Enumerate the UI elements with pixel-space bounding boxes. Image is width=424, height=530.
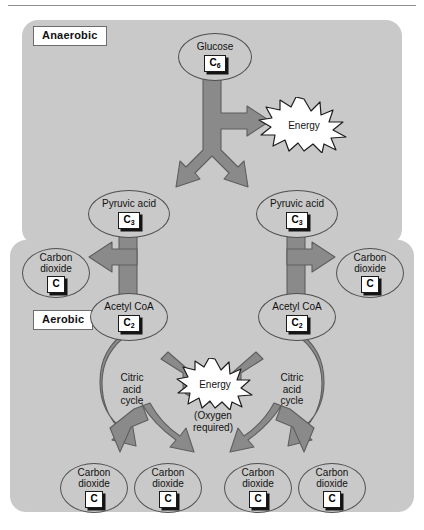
node-carbon-dioxide-bottom-2[interactable]: Carbon dioxide C (134, 463, 202, 513)
arrow-pyruvic-left-to-acetyl (119, 233, 137, 300)
node-pyruvic-right-formula: C3 (286, 212, 307, 229)
formula-subscript: 3 (131, 219, 135, 226)
cycle-right-line3: cycle (264, 395, 320, 407)
node-glucose-formula: C6 (204, 55, 225, 72)
node-carbon-dioxide-bottom-3[interactable]: Carbon dioxide C (224, 463, 292, 513)
energy-burst-aerobic-label: Energy (199, 379, 231, 390)
formula-letter: C (123, 214, 130, 225)
node-co2-ur-line1: Carbon (354, 253, 387, 264)
node-co2-b4-line1: Carbon (316, 468, 349, 479)
node-co2-b1-formula: C (85, 491, 102, 508)
node-acetyl-coa-left[interactable]: Acetyl CoA C2 (90, 293, 168, 341)
node-co2-b2-line1: Carbon (152, 468, 185, 479)
node-co2-b3-line1: Carbon (242, 468, 275, 479)
cycle-right-line2: acid (264, 384, 320, 396)
node-co2-b3-formula: C (249, 491, 266, 508)
node-glucose-label: Glucose (197, 42, 234, 53)
oxygen-note-line1: (Oxygen (182, 410, 244, 422)
formula-letter: C (291, 214, 298, 225)
section-tag-anaerobic: Anaerobic (33, 26, 107, 46)
node-carbon-dioxide-upper-right[interactable]: Carbon dioxide C (336, 248, 404, 298)
arrow-glucose-split (176, 78, 270, 187)
formula-subscript: 3 (299, 219, 303, 226)
cycle-left-line1: Citric (104, 372, 160, 384)
cycle-right-line1: Citric (264, 372, 320, 384)
node-co2-ul-line1: Carbon (40, 253, 73, 264)
node-pyruvic-acid-right[interactable]: Pyruvic acid C3 (256, 190, 338, 238)
node-co2-b2-line2: dioxide (152, 479, 184, 490)
node-carbon-dioxide-bottom-1[interactable]: Carbon dioxide C (60, 463, 128, 513)
node-glucose[interactable]: Glucose C6 (178, 33, 252, 81)
energy-burst-anaerobic-label: Energy (288, 120, 320, 131)
citric-acid-cycle-right-label: Citric acid cycle (264, 372, 320, 407)
node-pyruvic-right-label: Pyruvic acid (270, 199, 324, 210)
energy-burst-anaerobic: Energy (258, 97, 350, 153)
node-pyruvic-left-formula: C3 (118, 212, 139, 229)
node-acetyl-left-label: Acetyl CoA (104, 302, 153, 313)
formula-letter: C (209, 57, 216, 68)
node-co2-ur-formula: C (361, 276, 378, 293)
node-co2-ul-formula: C (47, 276, 64, 293)
oxygen-note-line2: required) (182, 422, 244, 434)
node-co2-ul-line2: dioxide (40, 264, 72, 275)
oxygen-required-note: (Oxygen required) (182, 410, 244, 433)
node-carbon-dioxide-bottom-4[interactable]: Carbon dioxide C (298, 463, 366, 513)
node-acetyl-coa-right[interactable]: Acetyl CoA C2 (258, 293, 336, 341)
node-co2-b2-formula: C (159, 491, 176, 508)
node-acetyl-left-formula: C2 (118, 315, 139, 332)
node-pyruvic-left-label: Pyruvic acid (102, 199, 156, 210)
formula-subscript: 6 (217, 62, 221, 69)
energy-burst-aerobic: Energy (176, 358, 254, 410)
node-pyruvic-acid-left[interactable]: Pyruvic acid C3 (88, 190, 170, 238)
node-acetyl-right-label: Acetyl CoA (272, 302, 321, 313)
node-co2-b4-formula: C (323, 491, 340, 508)
node-co2-b1-line1: Carbon (78, 468, 111, 479)
node-carbon-dioxide-upper-left[interactable]: Carbon dioxide C (22, 248, 90, 298)
formula-letter: C (291, 317, 298, 328)
node-co2-b4-line2: dioxide (316, 479, 348, 490)
arrow-pyruvic-right-to-acetyl (287, 233, 305, 300)
node-co2-b3-line2: dioxide (242, 479, 274, 490)
formula-letter: C (123, 317, 130, 328)
formula-subscript: 2 (131, 322, 135, 329)
cycle-left-line2: acid (104, 384, 160, 396)
node-co2-ur-line2: dioxide (354, 264, 386, 275)
section-tag-aerobic: Aerobic (33, 310, 93, 330)
node-co2-b1-line2: dioxide (78, 479, 110, 490)
node-acetyl-right-formula: C2 (286, 315, 307, 332)
formula-subscript: 2 (299, 322, 303, 329)
citric-acid-cycle-left-label: Citric acid cycle (104, 372, 160, 407)
diagram-canvas: Anaerobic Aerobic Glucose C6 Pyruvic aci… (0, 0, 424, 530)
cycle-left-line3: cycle (104, 395, 160, 407)
